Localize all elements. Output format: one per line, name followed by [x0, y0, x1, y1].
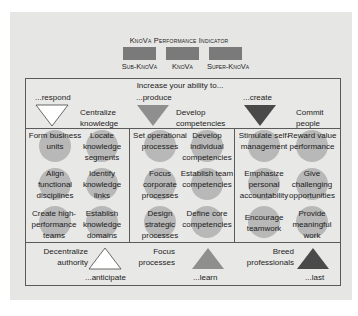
action-decentralize-authority: Decentralize authority	[28, 246, 88, 268]
cell-locate-knowledge-segments: Locate knowledge segments	[75, 130, 129, 163]
triangle-down-gray-icon	[136, 104, 170, 127]
triangle-up-gray-icon	[191, 247, 225, 270]
action-focus-processes: Focus processes	[130, 246, 175, 268]
divider-col-1	[129, 129, 130, 242]
cell-establish-team-competencies: Establish team competencies	[180, 168, 234, 190]
verb-produce: ...produce	[136, 92, 172, 103]
legend-swatch-super-knova	[209, 47, 242, 60]
triangle-down-white-icon	[35, 104, 69, 127]
triangle-up-dark-icon	[296, 247, 330, 270]
verb-learn: ...learn	[193, 272, 217, 283]
action-breed-professionals: Breed professionals	[244, 246, 294, 268]
cell-provide-meaningful-work: Provide meaningful work	[285, 208, 339, 241]
cell-encourage-teamwork: Encourage teamwork	[237, 212, 291, 234]
action-centralize-knowledge: Centralize knowledge	[80, 107, 130, 129]
action-commit-people: Commit people	[296, 107, 336, 129]
cell-set-operational-processes: Set operational processes	[133, 130, 187, 152]
verb-respond: ...respond	[35, 92, 71, 103]
cell-create-high-performance-teams: Create high-performance teams	[26, 208, 82, 241]
diagram-title: KnoVa Performance Indicator	[0, 36, 358, 45]
triangle-up-white-icon	[88, 247, 122, 270]
top-heading: Increase your ability to...	[110, 80, 250, 91]
divider-top	[26, 128, 340, 129]
legend-swatch-knova	[166, 47, 199, 60]
cell-define-core-competencies: Define core competencies	[180, 208, 234, 230]
verb-last: ...last	[305, 272, 324, 283]
cell-establish-knowledge-domains: Establish knowledge domains	[75, 208, 129, 241]
legend-label-super-knova: Super-KnoVa	[200, 62, 256, 71]
cell-focus-corporate-processes: Focus corporate processes	[133, 168, 187, 201]
legend-label-knova: KnoVa	[160, 62, 205, 71]
verb-create: ...create	[243, 92, 272, 103]
cell-design-strategic-processes: Design strategic processes	[133, 208, 187, 241]
divider-bottom	[26, 242, 340, 243]
cell-align-functional-disciplines: Align functional disciplines	[28, 168, 82, 201]
cell-stimulate-self-management: Stimulate self-management	[237, 130, 291, 152]
legend-label-sub-knova: Sub-KnoVa	[113, 62, 166, 71]
verb-anticipate: ...anticipate	[85, 272, 126, 283]
cell-give-challenging-opportunities: Give challenging opportunities	[285, 168, 339, 201]
triangle-down-dark-icon	[243, 104, 277, 127]
action-develop-competencies: Develop competencies	[176, 107, 236, 129]
cell-form-business-units: Form business units	[28, 130, 82, 152]
cell-reward-value-performance: Reward value performance	[285, 130, 339, 152]
cell-identify-knowledge-links: Identify knowledge links	[75, 168, 129, 201]
cell-develop-individual-competencies: Develop individual competencies	[180, 130, 234, 163]
legend-swatch-sub-knova	[123, 47, 156, 60]
